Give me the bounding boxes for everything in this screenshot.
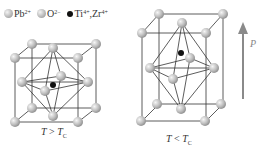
tetragonal-cell-atoms [136, 9, 228, 126]
ti-zr-atom [178, 50, 184, 56]
polarization-arrow [238, 22, 248, 99]
ti-zr-atom [50, 82, 56, 88]
o-atom [48, 43, 58, 53]
o-atom [40, 86, 50, 96]
o-atom [185, 53, 195, 63]
pb-atom [218, 9, 228, 19]
o-atom [209, 63, 219, 73]
pb-atom [91, 39, 101, 49]
pb-atom [216, 99, 226, 109]
pb-atom [10, 53, 20, 63]
pb-atom [10, 117, 20, 127]
o-atom [168, 74, 178, 84]
pb-atom [152, 99, 162, 109]
o-atom [145, 63, 155, 73]
o-atom [177, 18, 187, 28]
label-above-tc: T > TC [41, 126, 67, 139]
o-atom [176, 104, 186, 114]
pb-atom [136, 116, 146, 126]
o-atom [17, 77, 27, 87]
pb-atom [201, 28, 211, 38]
pb-atom [27, 103, 37, 113]
o-atom [56, 71, 66, 81]
pb-atom [154, 9, 164, 19]
pb-atom [73, 53, 83, 63]
o-atom [83, 77, 93, 87]
polarization-label: P [250, 38, 256, 49]
label-below-tc: T < TC [166, 133, 192, 146]
cubic-cell-atoms [10, 39, 101, 127]
pb-atom [73, 117, 83, 127]
pb-atom [137, 28, 147, 38]
pb-atom [91, 103, 101, 113]
o-atom [48, 111, 58, 121]
pb-atom [200, 116, 210, 126]
pb-atom [27, 39, 37, 49]
